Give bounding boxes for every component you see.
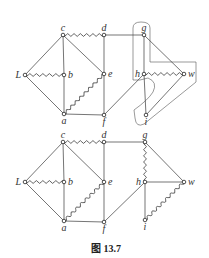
vertex-label-g: g [142, 22, 147, 33]
edge-L-a [25, 182, 64, 221]
vertex-c [61, 33, 65, 37]
edge-f-h [104, 74, 144, 115]
vertex-label-i: i [144, 221, 147, 232]
edge-h-w-wavy [144, 73, 184, 76]
edge-f-h [104, 182, 145, 222]
graph-top: cdgLbehwafi [14, 22, 196, 127]
vertex-label-e: e [108, 176, 113, 187]
vertex-label-b: b [68, 69, 73, 80]
vertex-h [143, 180, 147, 184]
vertex-label-b: b [68, 176, 73, 187]
vertex-label-a: a [62, 222, 67, 233]
edge-L-b-wavy [25, 181, 64, 184]
vertex-label-c: c [61, 129, 66, 140]
vertex-label-f: f [103, 223, 107, 234]
vertex-label-h: h [136, 176, 141, 187]
vertex-c [61, 140, 65, 144]
vertex-b [62, 73, 66, 77]
vertex-label-d: d [102, 129, 108, 140]
figure-caption: 图 13.7 [91, 243, 121, 254]
vertex-e [102, 180, 106, 184]
edge-g-h-wavy [144, 142, 147, 182]
vertex-label-L: L [14, 69, 21, 80]
edge-L-b-wavy [25, 74, 64, 77]
edge-c-L [25, 35, 63, 75]
edge-L-a [25, 75, 64, 114]
vertex-label-h: h [135, 68, 140, 79]
edge-c-L [25, 142, 63, 182]
vertex-w [182, 180, 186, 184]
vertex-d [102, 140, 106, 144]
vertex-label-w: w [188, 176, 195, 187]
vertex-b [62, 180, 66, 184]
vertex-label-L: L [14, 176, 21, 187]
vertex-d [102, 33, 106, 37]
edge-c-d-wavy [63, 34, 104, 37]
graph-diagram-figure: cdgLbehwafi cdgLbehwafi 图 13.7 [0, 0, 209, 258]
vertex-label-g: g [143, 129, 148, 140]
vertex-label-i: i [145, 116, 148, 127]
vertex-label-f: f [103, 116, 107, 127]
vertex-label-c: c [61, 22, 66, 33]
vertex-label-d: d [102, 22, 108, 33]
edge-a-f [64, 221, 104, 222]
vertex-L [23, 73, 27, 77]
edge-a-e-wavy [64, 182, 104, 221]
edge-g-w [145, 142, 184, 182]
edge-i-w-wavy [145, 182, 184, 220]
vertex-e [102, 72, 106, 76]
vertex-L [23, 180, 27, 184]
vertex-w [182, 72, 186, 76]
vertex-label-a: a [62, 115, 67, 126]
vertex-h [142, 72, 146, 76]
edge-c-b [63, 35, 64, 75]
vertex-g [142, 33, 146, 37]
vertex-g [143, 140, 147, 144]
graph-bottom: cdgLbehwafi [14, 129, 195, 234]
vertex-label-e: e [108, 68, 113, 79]
edge-c-b [63, 142, 64, 182]
edge-c-d-wavy [63, 141, 104, 144]
edge-a-f [64, 114, 104, 115]
vertex-label-w: w [188, 68, 195, 79]
edge-h-i [144, 74, 146, 115]
